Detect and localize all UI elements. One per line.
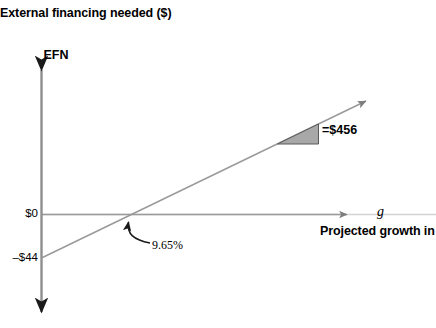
x-intercept-arrow: [128, 222, 150, 243]
x-axis-symbol: g: [377, 204, 384, 220]
slope-triangle: [278, 124, 319, 144]
x-axis-title: Projected growth in sales (%): [320, 224, 436, 239]
efn-growth-chart: External financing needed ($) EFN $0 –$4…: [0, 0, 436, 328]
y-axis-title: External financing needed ($): [0, 6, 112, 21]
breakeven-growth-label: 9.65%: [152, 239, 183, 253]
y-tick-zero: $0: [0, 207, 38, 220]
y-tick-negative: –$44: [0, 251, 38, 264]
slope-value-label: =$456: [322, 123, 357, 138]
y-axis-symbol: EFN: [0, 48, 112, 63]
